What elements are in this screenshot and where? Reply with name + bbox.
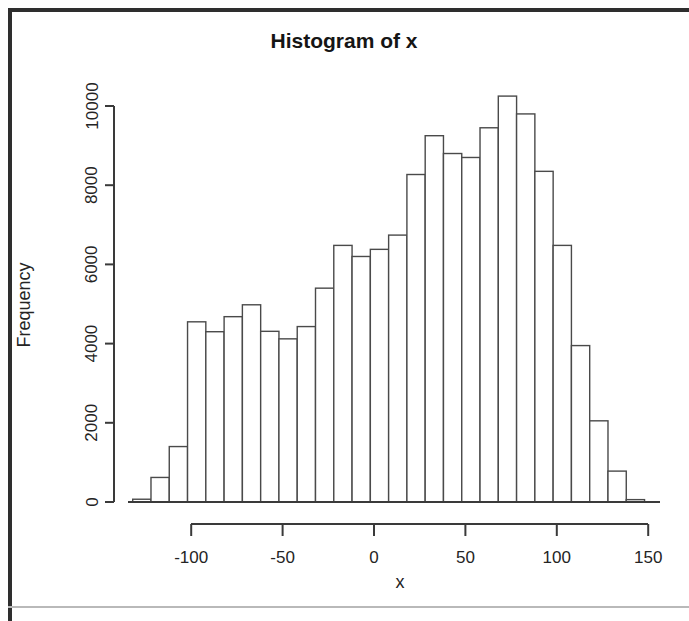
x-tick-label: 150 bbox=[634, 548, 662, 567]
histogram-bar bbox=[480, 128, 498, 502]
histogram-bar bbox=[517, 114, 535, 502]
histogram-bar bbox=[224, 317, 242, 502]
histogram-plot: Histogram of x Frequency x 0200040006000… bbox=[0, 0, 689, 621]
histogram-bar bbox=[188, 322, 206, 502]
histogram-bar bbox=[206, 332, 224, 502]
histogram-bar bbox=[443, 154, 461, 502]
histogram-bar bbox=[169, 447, 187, 502]
x-tick-label: -100 bbox=[174, 548, 208, 567]
page-title: Histogram of x bbox=[270, 29, 417, 52]
y-axis-tick-labels: 0200040006000800010000 bbox=[83, 82, 102, 506]
histogram-bar bbox=[425, 136, 443, 502]
x-tick-label: 100 bbox=[543, 548, 571, 567]
y-tick-label: 4000 bbox=[83, 325, 102, 363]
histogram-bar bbox=[261, 331, 279, 502]
y-tick-label: 10000 bbox=[83, 82, 102, 129]
histogram-bar bbox=[316, 288, 334, 502]
y-axis: 0200040006000800010000 bbox=[83, 82, 115, 506]
histogram-bar bbox=[370, 249, 388, 502]
x-axis: -100-50050100150 bbox=[174, 524, 662, 567]
histogram-bar bbox=[279, 339, 297, 502]
histogram-bar bbox=[498, 96, 516, 502]
y-axis-label: Frequency bbox=[14, 262, 34, 347]
histogram-bar bbox=[535, 171, 553, 502]
y-tick-label: 0 bbox=[83, 497, 102, 506]
y-tick-label: 2000 bbox=[83, 404, 102, 442]
histogram-bar bbox=[553, 245, 571, 502]
histogram-bar bbox=[297, 327, 315, 502]
histogram-bar bbox=[334, 245, 352, 502]
x-tick-label: 0 bbox=[369, 548, 378, 567]
y-tick-label: 8000 bbox=[83, 166, 102, 204]
histogram-bar bbox=[389, 235, 407, 502]
x-tick-label: 50 bbox=[456, 548, 475, 567]
histogram-bar bbox=[242, 305, 260, 502]
x-axis-ticks bbox=[191, 524, 648, 536]
histogram-bar bbox=[151, 477, 169, 502]
histogram-bar bbox=[352, 256, 370, 502]
histogram-bar bbox=[608, 471, 626, 502]
x-axis-label: x bbox=[396, 572, 405, 592]
histogram-bar bbox=[571, 346, 589, 502]
histogram-bar bbox=[462, 157, 480, 502]
x-tick-label: -50 bbox=[270, 548, 295, 567]
histogram-bar bbox=[407, 175, 425, 502]
histogram-bar bbox=[590, 421, 608, 502]
x-axis-tick-labels: -100-50050100150 bbox=[174, 548, 662, 567]
histogram-bars bbox=[133, 96, 645, 502]
y-axis-ticks bbox=[105, 106, 114, 502]
figure-page: Histogram of x Frequency x 0200040006000… bbox=[0, 0, 689, 621]
y-tick-label: 6000 bbox=[83, 245, 102, 283]
